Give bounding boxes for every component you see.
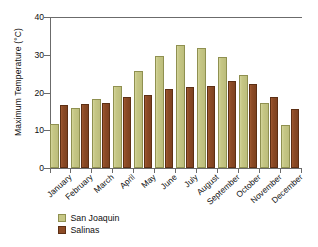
bar-salinas	[186, 87, 194, 168]
legend-item-san-joaquin: San Joaquin	[58, 212, 119, 224]
bar-group	[50, 17, 71, 168]
x-tick-mark	[196, 168, 197, 173]
bar-salinas	[81, 104, 89, 168]
x-tick-mark	[91, 168, 92, 173]
legend-label-salinas: Salinas	[71, 226, 100, 235]
bar-san-joaquin	[260, 103, 268, 168]
bar-salinas	[270, 97, 278, 168]
bar-san-joaquin	[113, 86, 121, 168]
bar-group	[218, 17, 239, 168]
x-tick-mark	[280, 168, 281, 173]
bar-san-joaquin	[239, 75, 247, 168]
x-tick-mark	[301, 168, 302, 173]
x-tick-mark	[259, 168, 260, 173]
bar-san-joaquin	[71, 108, 79, 168]
x-tick-mark	[175, 168, 176, 173]
bar-group	[197, 17, 218, 168]
bar-group	[155, 17, 176, 168]
y-tick-label: 0	[4, 163, 44, 173]
bar-group	[71, 17, 92, 168]
x-tick-mark	[50, 168, 51, 173]
y-tick-label: 40	[4, 12, 44, 22]
bar-salinas	[144, 95, 152, 168]
bar-salinas	[291, 109, 299, 168]
bar-group	[134, 17, 155, 168]
legend-swatch-icon-san-joaquin	[58, 214, 66, 222]
x-tick-mark	[112, 168, 113, 173]
y-tick-label: 10	[4, 125, 44, 135]
bar-salinas	[123, 97, 131, 168]
x-tick-mark	[133, 168, 134, 173]
bar-group	[92, 17, 113, 168]
bar-san-joaquin	[50, 124, 58, 168]
bar-salinas	[207, 86, 215, 168]
bar-san-joaquin	[92, 99, 100, 168]
legend-label-san-joaquin: San Joaquin	[71, 214, 120, 223]
y-tick-label: 30	[4, 49, 44, 59]
bar-san-joaquin	[197, 48, 205, 168]
bar-san-joaquin	[281, 125, 289, 168]
bar-salinas	[102, 103, 110, 168]
bar-chart-figure: Maximum Temperature (°C) 010203040 Janua…	[0, 0, 318, 247]
bar-salinas	[228, 81, 236, 168]
bar-san-joaquin	[176, 45, 184, 168]
bar-san-joaquin	[134, 71, 142, 168]
bars-layer	[50, 17, 302, 168]
y-tick-label: 20	[4, 87, 44, 97]
bar-group	[176, 17, 197, 168]
x-tick-mark	[154, 168, 155, 173]
bar-san-joaquin	[218, 57, 226, 168]
legend-item-salinas: Salinas	[58, 224, 119, 236]
bar-group	[281, 17, 302, 168]
legend-swatch-icon-salinas	[58, 226, 66, 234]
bar-san-joaquin	[155, 56, 163, 168]
bar-group	[260, 17, 281, 168]
x-tick-mark	[217, 168, 218, 173]
chart-legend: San Joaquin Salinas	[58, 212, 119, 236]
bar-salinas	[249, 84, 257, 168]
bar-group	[239, 17, 260, 168]
x-tick-mark	[70, 168, 71, 173]
bar-salinas	[165, 89, 173, 168]
x-tick-mark	[238, 168, 239, 173]
bar-group	[113, 17, 134, 168]
bar-salinas	[60, 105, 68, 168]
